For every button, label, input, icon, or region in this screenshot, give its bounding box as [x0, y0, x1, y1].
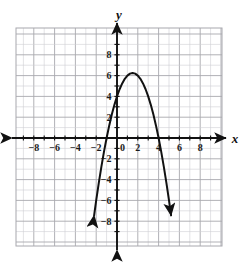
graph-figure: −8−6−4−2024688642−2−4−6−8yx: [0, 0, 242, 263]
y-axis-tick-label: −4: [101, 174, 112, 185]
y-axis-tick-label: 6: [107, 70, 112, 81]
y-axis-tick-label: −8: [101, 216, 112, 227]
y-axis-tick-label: 4: [107, 91, 112, 102]
y-axis-label: y: [114, 7, 122, 22]
x-axis-tick-label: −4: [70, 142, 81, 153]
x-axis-label: x: [231, 131, 239, 146]
x-axis-tick-label: 8: [198, 142, 203, 153]
x-axis-tick-label: 6: [177, 142, 182, 153]
x-axis-tick-label: 2: [135, 142, 140, 153]
x-axis-tick-label: −6: [49, 142, 60, 153]
x-axis-tick-label: −8: [28, 142, 39, 153]
y-axis-tick-label: −6: [101, 195, 112, 206]
figure-background: [0, 0, 242, 263]
x-axis-tick-label: 0: [120, 142, 125, 153]
x-axis-tick-label: −2: [91, 142, 102, 153]
coordinate-plane-graph: −8−6−4−2024688642−2−4−6−8yx: [0, 0, 242, 263]
y-axis-tick-label: 8: [107, 49, 112, 60]
